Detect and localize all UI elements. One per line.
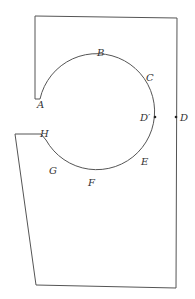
geometry-diagram: A B C D′ D E F G H: [0, 0, 195, 299]
label-f: F: [87, 177, 96, 188]
label-d: D: [179, 112, 188, 123]
label-g: G: [49, 165, 57, 176]
label-b: B: [96, 47, 104, 58]
label-h: H: [39, 128, 49, 139]
label-e: E: [140, 156, 149, 167]
label-d-prime: D′: [139, 112, 151, 123]
label-a: A: [36, 99, 44, 110]
label-c: C: [146, 72, 154, 83]
circular-arc: [40, 54, 155, 170]
outer-boundary: [15, 16, 177, 288]
point-d-prime-dot: [154, 116, 157, 119]
point-d-dot: [175, 116, 178, 119]
